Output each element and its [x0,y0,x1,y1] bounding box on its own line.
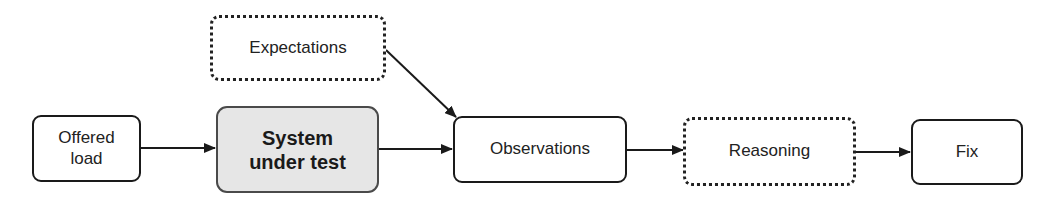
node-expectations-label: Expectations [249,38,346,58]
node-offered-load-line1: Offered [58,128,114,148]
node-expectations: Expectations [210,15,386,81]
node-observations: Observations [453,116,627,183]
node-offered-load-line2: load [70,149,102,169]
edge-expectations-to-observations [386,50,456,117]
node-observations-label: Observations [490,139,590,159]
node-reasoning-label: Reasoning [729,141,810,161]
node-sut-line2: under test [249,150,346,174]
node-reasoning: Reasoning [683,117,856,186]
node-sut-line1: System [262,126,333,150]
node-offered-load: Offered load [32,115,141,182]
node-system-under-test: System under test [216,106,379,193]
node-fix: Fix [911,119,1023,185]
node-fix-label: Fix [956,142,979,162]
